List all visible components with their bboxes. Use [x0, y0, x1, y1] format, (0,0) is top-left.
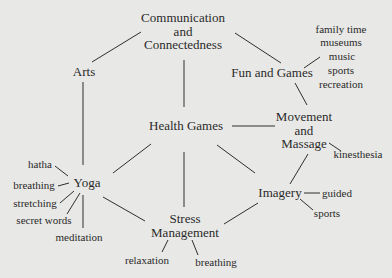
node-health-games: Health Games — [149, 119, 223, 133]
imagery-item-sports: sports — [314, 207, 340, 221]
node-label-line: Connectedness — [141, 38, 225, 52]
node-label-line: Communication — [141, 11, 225, 25]
node-label-line: Stress — [151, 212, 219, 226]
node-yoga: Yoga — [74, 176, 101, 190]
node-label-line: and — [141, 24, 225, 38]
health-games-concept-map: Communication and Connectedness Arts Fun… — [0, 0, 392, 278]
movement-item-kinesthesia: kinesthesia — [334, 148, 383, 162]
node-imagery: Imagery — [258, 186, 301, 200]
fun-and-games-item-family-time: family time — [315, 23, 366, 37]
node-fun-and-games: Fun and Games — [231, 66, 313, 80]
yoga-item-breathing: breathing — [13, 179, 55, 193]
node-movement-and-massage: Movement and Massage — [276, 110, 332, 151]
fun-and-games-item-sports: sports — [328, 64, 354, 78]
node-arts: Arts — [73, 65, 95, 79]
fun-and-games-item-museums: museums — [320, 36, 362, 50]
yoga-item-meditation: meditation — [55, 231, 102, 245]
fun-and-games-item-recreation: recreation — [319, 78, 363, 92]
node-stress-management: Stress Management — [151, 212, 219, 239]
yoga-item-stretching: stretching — [13, 197, 56, 211]
yoga-item-hatha: hatha — [28, 158, 52, 172]
stress-item-breathing: breathing — [195, 256, 237, 270]
node-communication-and-connectedness: Communication and Connectedness — [141, 11, 225, 52]
imagery-item-guided: guided — [322, 187, 352, 201]
stress-item-relaxation: relaxation — [125, 254, 169, 268]
yoga-item-secret-words: secret words — [16, 214, 71, 228]
node-label-line: Movement — [276, 110, 332, 124]
node-label-line: Massage — [276, 137, 332, 151]
node-label-line: and — [276, 123, 332, 137]
node-label-line: Management — [151, 225, 219, 239]
fun-and-games-item-music: music — [329, 50, 355, 64]
